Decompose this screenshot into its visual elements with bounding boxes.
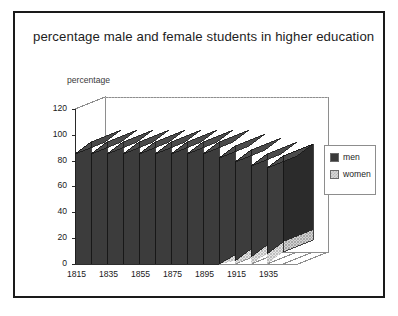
legend-label-men: men	[343, 152, 360, 162]
legend-item-men: men	[330, 152, 375, 162]
x-tick-1915: 1915	[227, 269, 246, 279]
legend-label-women: women	[343, 169, 371, 179]
y-tick-40: 40	[43, 206, 67, 216]
y-tick-0: 0	[43, 258, 67, 268]
legend-swatch-women	[330, 170, 339, 179]
y-tick-120: 120	[43, 103, 67, 113]
chart-legend: men women	[324, 145, 376, 195]
x-tick-1855: 1855	[131, 269, 150, 279]
x-tick-1935: 1935	[259, 269, 278, 279]
y-tick-60: 60	[43, 180, 67, 190]
chart-frame: percentage male and female students in h…	[13, 11, 385, 298]
x-tick-1895: 1895	[195, 269, 214, 279]
y-tick-80: 80	[43, 155, 67, 165]
x-tick-1875: 1875	[163, 269, 182, 279]
x-tick-1815: 1815	[67, 269, 86, 279]
x-tick-1835: 1835	[99, 269, 118, 279]
legend-swatch-men	[330, 153, 339, 162]
legend-item-women: women	[330, 169, 375, 179]
y-tick-100: 100	[43, 129, 67, 139]
y-tick-20: 20	[43, 232, 67, 242]
